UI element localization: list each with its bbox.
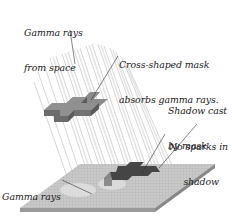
diagram-canvas: Gamma rays from space Cross-shaped mask … [0,0,232,224]
label-no-sparks: No sparks in shadow [169,118,228,210]
label-trigger-sparks: Gamma rays trigger sparks. [2,168,71,224]
label-gamma-rays-from-space: Gamma rays from space [24,4,83,96]
